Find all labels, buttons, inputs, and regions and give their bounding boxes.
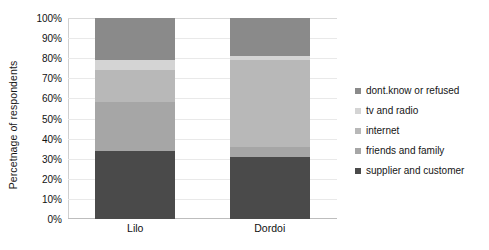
stacked-bar-chart: Percetnage of respondents 0%10%20%30%40%… [0,0,489,250]
y-axis-tick-label: 0% [48,214,62,225]
legend-swatch-icon [355,148,361,154]
bar-dordoi[interactable] [230,18,310,219]
legend-item-label: tv and radio [366,106,418,116]
y-axis-tick-label: 80% [42,53,62,64]
y-axis-tick-label: 10% [42,193,62,204]
legend-swatch-icon [355,108,361,114]
legend-swatch-icon [355,128,361,134]
y-axis-tick-label: 90% [42,33,62,44]
y-axis-tick-label: 60% [42,93,62,104]
bar-segment-supplier-and-customer[interactable] [230,157,310,219]
x-axis-category-label: Dordoi [254,222,285,234]
y-axis-title-text: Percetnage of respondents [7,61,19,190]
bar-segment-friends-and-family[interactable] [230,147,310,157]
bar-segment-internet[interactable] [230,60,310,146]
bar-segment-supplier-and-customer[interactable] [95,151,175,219]
plot-area [68,18,337,219]
legend-swatch-icon [355,88,361,94]
legend-item-label: internet [366,126,399,136]
y-axis-tick-label: 70% [42,73,62,84]
bar-segment-tv-and-radio[interactable] [230,56,310,60]
y-axis-title: Percetnage of respondents [2,0,24,250]
y-axis-tick-label: 100% [36,13,62,24]
y-axis-tick-label: 30% [42,153,62,164]
y-axis-tick-label: 20% [42,173,62,184]
legend-item[interactable]: supplier and customer [355,162,487,179]
y-axis-tick-label: 40% [42,133,62,144]
chart-legend: dont.know or refusedtv and radiointernet… [355,82,487,182]
x-axis-category-labels: LiloDordoi [68,222,337,242]
bar-segment-dont-know-or-refused[interactable] [230,18,310,56]
legend-item-label: dont.know or refused [366,86,459,96]
bar-segment-internet[interactable] [95,70,175,102]
bar-segment-tv-and-radio[interactable] [95,60,175,70]
y-axis-tick-labels: 0%10%20%30%40%50%60%70%80%90%100% [24,0,66,250]
bar-segment-dont-know-or-refused[interactable] [95,18,175,60]
legend-item[interactable]: tv and radio [355,102,487,119]
bar-lilo[interactable] [95,18,175,219]
legend-item[interactable]: friends and family [355,142,487,159]
legend-swatch-icon [355,168,361,174]
y-axis-tick-label: 50% [42,113,62,124]
x-axis-category-label: Lilo [127,222,143,234]
bar-segment-friends-and-family[interactable] [95,102,175,150]
legend-item[interactable]: internet [355,122,487,139]
legend-item-label: friends and family [366,146,444,156]
legend-item[interactable]: dont.know or refused [355,82,487,99]
legend-item-label: supplier and customer [366,166,464,176]
